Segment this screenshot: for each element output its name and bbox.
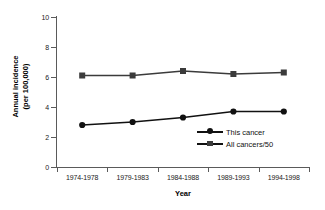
legend-item-all-cancers[interactable]: All cancers/50 xyxy=(197,138,301,150)
legend-label: This cancer xyxy=(223,128,265,137)
chart-legend: This cancer All cancers/50 xyxy=(197,126,301,150)
data-point-circle[interactable] xyxy=(230,108,236,114)
data-point-circle[interactable] xyxy=(180,114,186,120)
data-point-square[interactable] xyxy=(79,73,85,79)
legend-item-this-cancer[interactable]: This cancer xyxy=(197,126,301,138)
legend-label: All cancers/50 xyxy=(223,140,273,149)
series-plot xyxy=(0,0,325,210)
chart-figure: 0246810 1974-19781979-19831984-19881989-… xyxy=(0,0,325,210)
data-point-square[interactable] xyxy=(130,73,136,79)
data-point-circle[interactable] xyxy=(281,108,287,114)
data-point-circle[interactable] xyxy=(79,122,85,128)
data-point-square[interactable] xyxy=(281,70,287,76)
square-marker-icon xyxy=(197,138,223,150)
series-all-cancers xyxy=(79,68,287,79)
data-point-square[interactable] xyxy=(230,71,236,77)
data-point-circle[interactable] xyxy=(130,119,136,125)
data-point-square[interactable] xyxy=(180,68,186,74)
circle-marker-icon xyxy=(197,126,223,138)
